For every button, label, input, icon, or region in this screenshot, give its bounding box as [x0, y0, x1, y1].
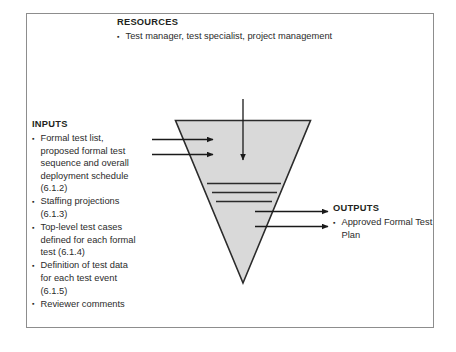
resources-block: RESOURCES Test manager, test specialist,… [117, 17, 367, 43]
inputs-list: Formal test list, proposed formal test s… [32, 132, 140, 310]
list-item: Definition of test data for each test ev… [32, 259, 140, 297]
list-item: Top-level test cases defined for each fo… [32, 221, 140, 259]
outputs-block: OUTPUTS Approved Formal Test Plan [333, 203, 433, 242]
list-item: Test manager, test specialist, project m… [117, 30, 367, 43]
list-item: Formal test list, proposed formal test s… [32, 132, 140, 195]
inputs-heading: INPUTS [32, 119, 140, 130]
list-item: Reviewer comments [32, 298, 140, 311]
outputs-heading: OUTPUTS [333, 203, 433, 214]
inputs-block: INPUTS Formal test list, proposed formal… [32, 119, 140, 311]
diagram-root: RESOURCES Test manager, test specialist,… [0, 0, 456, 352]
resources-list: Test manager, test specialist, project m… [117, 30, 367, 43]
resources-heading: RESOURCES [117, 17, 367, 28]
outputs-list: Approved Formal Test Plan [333, 216, 433, 241]
list-item: Approved Formal Test Plan [333, 216, 433, 241]
list-item: Staffing projections (6.1.3) [32, 195, 140, 220]
